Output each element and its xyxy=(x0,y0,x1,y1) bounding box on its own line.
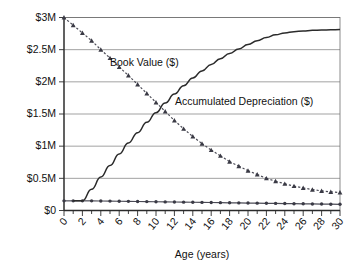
salvage-value-marker xyxy=(265,202,268,205)
salvage-value-marker xyxy=(256,201,259,204)
y-tick-label: $2.5M xyxy=(27,43,56,55)
chart-background xyxy=(0,0,358,271)
salvage-value-marker xyxy=(311,202,314,205)
salvage-value-marker xyxy=(164,200,167,203)
salvage-value-marker xyxy=(173,200,176,203)
salvage-value-marker xyxy=(191,201,194,204)
salvage-value-marker xyxy=(219,201,222,204)
chart-svg: $0$0.5M$1M$1.5M$2M$2.5M$3M 0246810121416… xyxy=(0,0,358,271)
salvage-value-marker xyxy=(90,199,93,202)
salvage-value-marker xyxy=(320,202,323,205)
y-tick-label: $2M xyxy=(36,75,56,87)
salvage-value-marker xyxy=(136,200,139,203)
salvage-value-marker xyxy=(338,203,341,206)
y-tick-label: $1M xyxy=(36,139,56,151)
salvage-value-marker xyxy=(118,200,121,203)
salvage-value-marker xyxy=(154,200,157,203)
y-tick-label: $0 xyxy=(44,204,56,216)
salvage-value-marker xyxy=(246,201,249,204)
salvage-value-marker xyxy=(228,201,231,204)
salvage-value-marker xyxy=(62,199,65,202)
salvage-value-marker xyxy=(329,203,332,206)
salvage-value-marker xyxy=(274,202,277,205)
salvage-value-marker xyxy=(127,200,130,203)
annotation-book-value: Book Value ($) xyxy=(110,56,179,68)
salvage-value-marker xyxy=(210,201,213,204)
salvage-value-marker xyxy=(99,199,102,202)
salvage-value-marker xyxy=(237,201,240,204)
salvage-value-marker xyxy=(108,199,111,202)
salvage-value-marker xyxy=(200,201,203,204)
y-tick-label: $1.5M xyxy=(27,107,56,119)
salvage-value-marker xyxy=(302,202,305,205)
salvage-value-marker xyxy=(145,200,148,203)
salvage-value-marker xyxy=(182,200,185,203)
salvage-value-marker xyxy=(292,202,295,205)
y-tick-label: $3M xyxy=(36,11,56,23)
depreciation-chart: $0$0.5M$1M$1.5M$2M$2.5M$3M 0246810121416… xyxy=(0,0,358,271)
x-axis-title: Age (years) xyxy=(175,248,229,260)
y-tick-label: $0.5M xyxy=(27,172,56,184)
annotation-accumulated-depreciation: Accumulated Depreciation ($) xyxy=(175,95,313,107)
salvage-value-marker xyxy=(283,202,286,205)
